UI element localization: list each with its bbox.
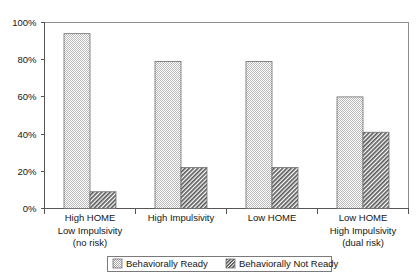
x-category-label: High Impulsivity [330, 225, 397, 236]
bar [272, 168, 298, 209]
y-tick-label: 20% [17, 166, 37, 177]
y-tick-label: 80% [17, 54, 37, 65]
y-tick-label: 40% [17, 129, 37, 140]
y-tick-label: 100% [12, 17, 37, 28]
x-category-label: Low HOME [248, 212, 297, 223]
chart-svg: 100%80%60%40%20%0% High HOMELow Impulsiv… [0, 0, 420, 276]
bar [64, 34, 90, 209]
y-tick-label: 60% [17, 91, 37, 102]
x-category-label: High Impulsivity [148, 212, 215, 223]
bar [363, 132, 389, 208]
category-label-group: High HOMELow Impulsivity(no risk)High Im… [58, 212, 397, 248]
x-category-label: Low HOME [339, 212, 388, 223]
y-tick-label: 0% [23, 203, 37, 214]
y-tick-group: 100%80%60%40%20%0% [12, 17, 44, 214]
bar [246, 62, 272, 209]
bar [155, 62, 181, 209]
legend-label: Behaviorally Not Ready [239, 258, 339, 269]
x-category-label: High HOME [65, 212, 116, 223]
bar [337, 97, 363, 209]
x-category-label: (no risk) [73, 237, 107, 248]
x-category-label: (dual risk) [342, 237, 384, 248]
bar-chart: 100%80%60%40%20%0% High HOMELow Impulsiv… [0, 0, 420, 276]
legend-swatch [113, 259, 122, 268]
bar [90, 192, 116, 209]
bars-group [64, 34, 389, 209]
legend-label: Behaviorally Ready [126, 258, 208, 269]
bar [181, 168, 207, 209]
legend-swatch [226, 259, 235, 268]
chart-legend: Behaviorally ReadyBehaviorally Not Ready [108, 257, 339, 272]
x-category-label: Low Impulsivity [58, 225, 123, 236]
